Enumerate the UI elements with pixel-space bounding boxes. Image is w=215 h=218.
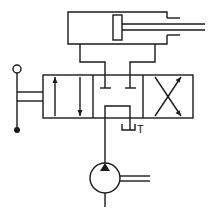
- tank-label: T: [137, 123, 144, 135]
- directional-valve: [43, 75, 193, 118]
- tank: T: [122, 118, 144, 135]
- hydraulic-circuit-diagram: T: [0, 0, 215, 218]
- lever-actuator: [13, 65, 43, 133]
- cylinder-lines: [80, 44, 155, 88]
- pivot-icon: [14, 127, 20, 133]
- cylinder: [68, 12, 205, 44]
- piston: [113, 15, 122, 40]
- lever-knob-icon: [13, 65, 21, 73]
